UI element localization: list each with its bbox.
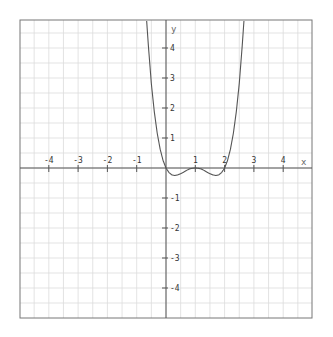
y-axis-label: y bbox=[171, 24, 177, 34]
y-tick-label: -3 bbox=[170, 254, 180, 263]
y-tick-label: 1 bbox=[170, 134, 175, 143]
y-tick-label: 4 bbox=[170, 44, 175, 53]
x-tick-label: -4 bbox=[44, 156, 54, 165]
x-tick-label: 1 bbox=[193, 156, 198, 165]
x-tick-label: 4 bbox=[281, 156, 286, 165]
y-tick-label: -1 bbox=[170, 194, 180, 203]
x-tick-label: -1 bbox=[132, 156, 142, 165]
x-axis-label: x bbox=[301, 157, 307, 167]
x-tick-label: -3 bbox=[73, 156, 83, 165]
y-tick-label: 2 bbox=[170, 104, 175, 113]
y-tick-label: -2 bbox=[170, 224, 180, 233]
y-tick-label: 3 bbox=[170, 74, 175, 83]
x-tick-label: -2 bbox=[103, 156, 113, 165]
x-tick-label: 3 bbox=[251, 156, 256, 165]
function-plot: -4-3-2-112344321-1-2-3-4 x y bbox=[0, 0, 333, 337]
y-tick-label: -4 bbox=[170, 284, 180, 293]
